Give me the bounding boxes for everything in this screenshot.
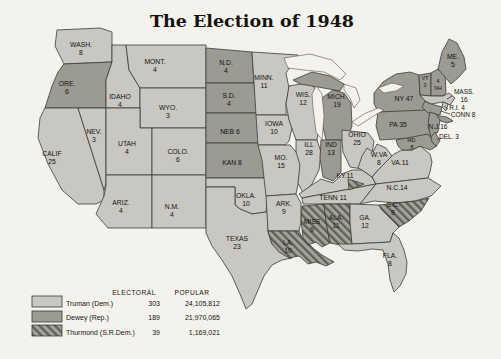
legend-popular-truman: 24,105,812: [185, 300, 220, 307]
state-label-tenn: TENN 11: [319, 194, 347, 201]
state-label-la: LA.10: [283, 239, 293, 254]
state-label-ri: R.I. 4: [449, 104, 465, 111]
legend-electoral-header: ELECTORAL: [112, 289, 156, 296]
state-label-va: VA.11: [391, 159, 409, 166]
legend-popular-dewey: 21,970,065: [185, 314, 220, 321]
legend-popular-thurmond: 1,169,021: [189, 329, 220, 336]
election-map-svg: The Election of 1948 WASH.8ORE.6CALIF25N…: [0, 0, 501, 359]
state-label-nc: N.C.14: [386, 184, 407, 191]
state-label-pa: PA 35: [389, 121, 407, 128]
state-mont: [126, 45, 206, 88]
legend-candidate-truman: Truman (Dem.): [66, 300, 113, 308]
legend-electoral-thurmond: 39: [152, 329, 160, 336]
legend-popular-header: POPULAR: [174, 289, 209, 296]
legend-swatch-truman: [32, 296, 62, 307]
state-nm: [152, 175, 206, 228]
state-label-kan: KAN 8: [222, 159, 242, 166]
legend-electoral-truman: 303: [148, 300, 160, 307]
state-label-del: DEL. 3: [439, 133, 459, 140]
state-label-nj: N.J.16: [429, 123, 448, 130]
legend-swatch-dewey: [32, 311, 62, 322]
state-label-neb: NEB 6: [220, 128, 240, 135]
state-label-ill: ILL28: [304, 141, 314, 156]
state-label-ny: NY 47: [395, 95, 414, 102]
state-label-conn: CONN 8: [451, 111, 476, 118]
election-1948-map-figure: The Election of 1948 WASH.8ORE.6CALIF25N…: [0, 0, 501, 359]
legend-swatch-thurmond: [32, 325, 62, 336]
legend-candidate-dewey: Dewey (Rep.): [66, 314, 109, 322]
map-title: The Election of 1948: [150, 11, 354, 31]
legend-electoral-dewey: 189: [148, 314, 160, 321]
state-label-ky: KY.11: [336, 172, 353, 179]
legend-candidate-thurmond: Thurmond (S.R.Dem.): [66, 329, 135, 337]
